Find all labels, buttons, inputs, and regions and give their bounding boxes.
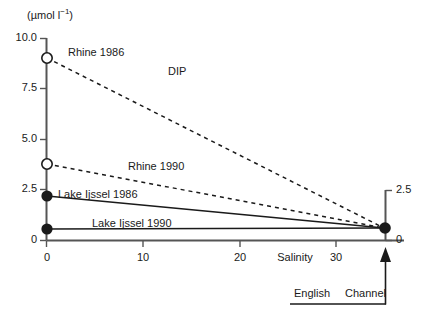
y-axis-unit-exponent: −1: [60, 7, 69, 16]
marker-lake-ijssel-1986-endmember: [41, 190, 52, 201]
marker-marine-endmember: [379, 222, 391, 234]
x-tick-label-20: 20: [225, 252, 255, 263]
y-tick-label-2-5: 2.5: [0, 183, 37, 194]
y-tick-label-0: 0: [0, 234, 37, 245]
x-axis-title: Salinity: [265, 252, 325, 263]
english-channel-label-word2: Channel: [345, 288, 386, 299]
y-tick-label-5: 5.0: [0, 133, 37, 144]
english-channel-arrow-icon: [380, 247, 391, 262]
series-line-rhine-1986: [47, 58, 384, 228]
y-right-tick-label-2-5: 2.5: [396, 184, 426, 195]
x-tick-label-30: 30: [321, 252, 351, 263]
y-axis-unit-base: (µmol l: [27, 9, 60, 21]
x-tick-label-0: 0: [32, 252, 62, 263]
english-channel-label-word1: English: [294, 288, 330, 299]
series-label-rhine-1990: Rhine 1990: [128, 161, 184, 172]
y-right-tick-label-0: 0: [396, 234, 426, 245]
series-label-lake-ijssel-1986: Lake Ijssel 1986: [58, 189, 138, 200]
marker-lake-ijssel-1990-endmember: [41, 223, 52, 234]
y-tick-label-7-5: 7.5: [0, 82, 37, 93]
series-label-lake-ijssel-1990: Lake Ijssel 1990: [92, 218, 172, 229]
chart-svg: [0, 0, 429, 322]
y-axis-unit-label: (µmol l−1): [27, 8, 73, 21]
x-tick-label-10: 10: [128, 252, 158, 263]
chart-figure: (µmol l−1) 10.0 7.5 5.0 2.5 0 0 10 20 30…: [0, 0, 429, 322]
y-tick-label-10: 10.0: [0, 32, 37, 43]
dip-annotation: DIP: [168, 66, 186, 77]
y-axis-unit-tail: ): [69, 9, 73, 21]
marker-rhine-1986-endmember: [42, 53, 52, 63]
series-label-rhine-1986: Rhine 1986: [68, 47, 124, 58]
marker-rhine-1990-endmember: [42, 159, 52, 169]
